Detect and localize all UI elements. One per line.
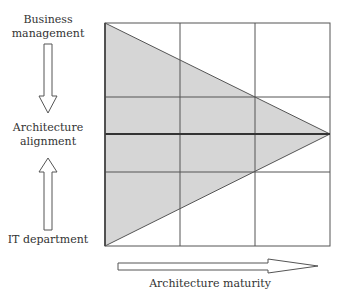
label-architecture-alignment: Architecture alignment [8,121,88,149]
label-business-management: Business management [8,13,88,41]
label-it-department: IT department [5,233,91,247]
up-arrow-icon [39,158,57,230]
right-arrow-icon [118,259,318,273]
label-architecture-maturity: Architecture maturity [140,277,280,291]
maturity-diagram [0,0,347,303]
down-arrow-icon [39,44,57,113]
